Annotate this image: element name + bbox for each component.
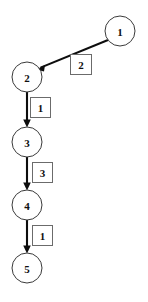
graph-node-3[interactable]: 3 [12, 127, 42, 157]
edge-weight-n4-n5: 1 [33, 226, 53, 246]
weight-label-n3-n4: 3 [40, 167, 46, 179]
graph-node-5[interactable]: 5 [12, 253, 42, 283]
graph-node-4[interactable]: 4 [12, 190, 42, 220]
arrowhead-n2-n3 [23, 120, 31, 128]
edge-n3-n4 [23, 157, 31, 191]
weight-label-n1-n2: 2 [78, 59, 84, 71]
node-label-5: 5 [24, 263, 30, 275]
edge-weight-n3-n4: 3 [33, 163, 53, 183]
node-label-1: 1 [117, 26, 123, 38]
arrowhead-n4-n5 [23, 246, 31, 254]
edge-n4-n5 [23, 220, 31, 254]
node-label-2: 2 [24, 72, 30, 84]
weight-label-n2-n3: 1 [38, 102, 44, 114]
arrowhead-n3-n4 [23, 183, 31, 191]
node-label-3: 3 [24, 137, 30, 149]
graph-node-2[interactable]: 2 [12, 62, 42, 92]
weight-label-n4-n5: 1 [40, 230, 46, 242]
edge-weight-n1-n2: 2 [71, 55, 92, 75]
graph-diagram: 2 1 3 1 1 2 3 4 [0, 0, 148, 302]
edge-n2-n3 [23, 92, 31, 128]
node-label-4: 4 [24, 200, 30, 212]
edge-weight-n2-n3: 1 [31, 98, 51, 118]
graph-node-1[interactable]: 1 [105, 16, 135, 46]
graph-canvas: 2 1 3 1 1 2 3 4 [0, 0, 148, 302]
